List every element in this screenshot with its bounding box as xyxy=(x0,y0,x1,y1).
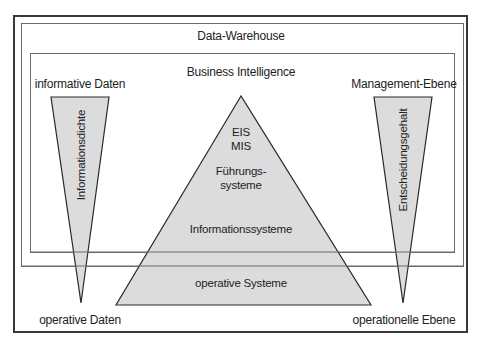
pyramid-level-operative-systeme: operative Systeme xyxy=(195,276,287,290)
left-wedge-vertical-label: Informationsdichte xyxy=(75,110,87,200)
right-wedge-bottom-label: operationelle Ebene xyxy=(353,313,456,327)
pyramid-operative-systeme-label: operative Systeme xyxy=(195,276,287,290)
business-intelligence-title: Business Intelligence xyxy=(187,65,296,79)
data-warehouse-title: Data-Warehouse xyxy=(197,29,284,43)
pyramid-level-informationssysteme: Informationssysteme xyxy=(190,222,292,236)
pyramid-systeme-label: systeme xyxy=(216,178,267,192)
pyramid-level-eis-mis: EIS MIS xyxy=(231,125,251,153)
pyramid-fuehrungs-label: Führungs- xyxy=(216,164,267,178)
left-wedge-bottom-label: operative Daten xyxy=(39,313,121,327)
pyramid-level-fuehrungssysteme: Führungs- systeme xyxy=(216,164,267,192)
pyramid-eis-label: EIS xyxy=(231,125,251,139)
pyramid-informationssysteme-label: Informationssysteme xyxy=(190,222,292,236)
right-wedge-top-label: Management-Ebene xyxy=(351,77,457,91)
pyramid-mis-label: MIS xyxy=(231,139,251,153)
right-wedge-vertical-label: Entscheidungsgehalt xyxy=(397,109,409,212)
left-wedge-top-label: informative Daten xyxy=(35,77,126,91)
